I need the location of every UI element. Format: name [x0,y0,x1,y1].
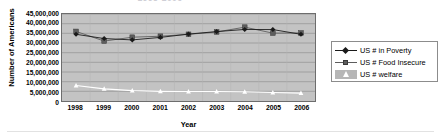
gridlines [62,14,315,91]
plot-area [61,13,316,102]
y-axis-tick: 0 [9,99,59,106]
legend-item-welfare[interactable]: US # welfare [335,68,434,80]
legend-item-food-insecure[interactable]: US # Food Insecure [335,56,434,68]
chart-title: 1998-2006 [0,0,320,2]
x-axis-tick: 2006 [282,104,322,111]
legend-item-poverty[interactable]: US # in Poverty [335,44,434,56]
y-axis-tick: 20,000,000 [9,59,59,66]
legend-label-food-insecure: US # Food Insecure [360,57,426,68]
chart-legend: US # in Poverty US # Food Insecure US # … [331,41,438,82]
y-axis-tick: 25,000,000 [9,49,59,56]
plot-svg [62,14,315,101]
legend-label-welfare: US # welfare [360,69,402,80]
y-axis-tick: 10,000,000 [9,79,59,86]
y-axis-tick: 45,000,000 [9,10,59,17]
bottom-divider [7,131,434,132]
legend-diamond-marker-icon [335,45,357,56]
chart-container: 1998-2006 Number of Americans 45,000,000… [0,0,441,137]
y-axis-tick: 15,000,000 [9,69,59,76]
y-axis-tick: 30,000,000 [9,39,59,46]
category-separators [90,14,287,101]
y-axis-tick: 5,000,000 [9,89,59,96]
legend-label-poverty: US # in Poverty [360,45,411,56]
x-axis-title: Year [61,120,316,129]
legend-triangle-marker-icon [335,69,357,80]
y-axis-tick-labels: 45,000,00040,000,00035,000,00030,000,000… [9,10,59,105]
y-axis-tick: 35,000,000 [9,29,59,36]
y-axis-tick: 40,000,000 [9,19,59,26]
legend-square-marker-icon [335,57,357,68]
series-us-welfare [74,83,304,95]
x-axis-tick-labels: 199819992000200120022003200420052006 [61,104,316,115]
